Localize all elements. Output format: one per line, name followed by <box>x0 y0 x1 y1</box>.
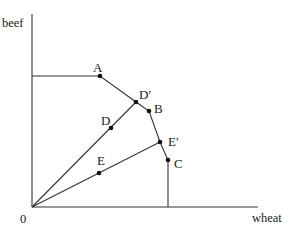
label-b: B <box>154 101 163 116</box>
label-a: A <box>93 60 103 75</box>
ray-d <box>32 102 136 207</box>
label-e-prime: E′ <box>168 134 179 149</box>
origin-label: 0 <box>20 212 26 226</box>
x-axis-label: wheat <box>252 211 282 225</box>
point-e <box>97 171 102 176</box>
point-c <box>166 158 171 163</box>
label-d: D <box>101 113 110 128</box>
label-d-prime: D′ <box>139 87 151 102</box>
label-c: C <box>174 156 183 171</box>
point-e-prime <box>158 140 163 145</box>
point-b <box>147 109 152 114</box>
point-d-prime <box>134 100 139 105</box>
label-e: E <box>97 153 105 168</box>
y-axis-label: beef <box>2 16 24 30</box>
ppf-diagram: beef wheat 0 A D′ B E′ C D E <box>0 0 299 234</box>
ray-e <box>32 142 160 207</box>
